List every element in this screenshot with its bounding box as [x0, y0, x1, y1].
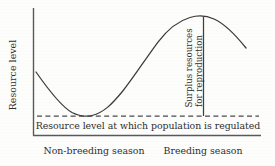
y-axis-label: Resource level — [7, 40, 18, 111]
surplus-annotation-line-2: for reproduction — [194, 35, 204, 107]
chart-canvas — [0, 0, 275, 166]
surplus-annotation-line-1: Surplus resources — [184, 28, 194, 107]
x-tick-label-breeding-season: Breeding season — [164, 145, 243, 156]
resource-level-figure: Resource level Resource level at which p… — [0, 0, 275, 166]
threshold-caption: Resource level at which population is re… — [36, 120, 261, 131]
resource-level-curve — [36, 16, 246, 116]
x-tick-label-non-breeding-season: Non-breeding season — [43, 145, 144, 156]
